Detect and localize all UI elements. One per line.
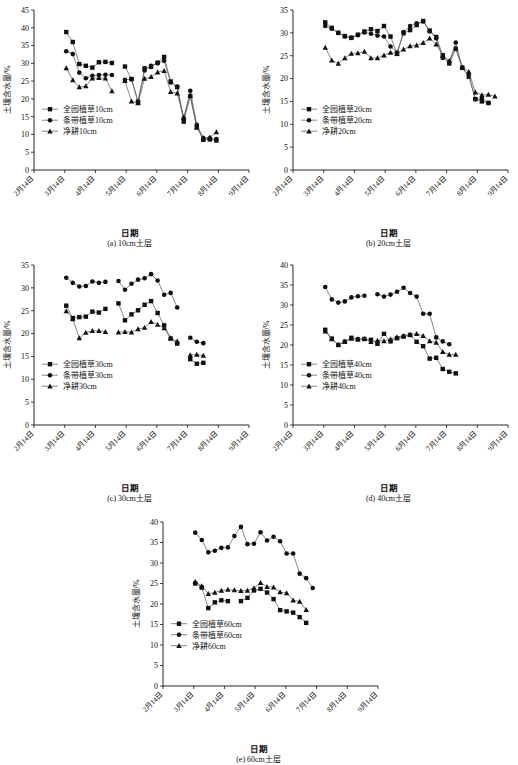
x-tick-label: 2月14日 xyxy=(271,430,294,453)
data-point-square xyxy=(421,344,425,348)
panel-caption-text: (e) 60cm土层 xyxy=(129,755,388,765)
data-point-circle xyxy=(149,64,154,69)
data-point-circle xyxy=(155,61,160,66)
x-tick-label: 3月14日 xyxy=(43,430,66,453)
data-point-circle xyxy=(307,373,312,378)
data-point-circle xyxy=(84,284,89,289)
data-point-triangle xyxy=(420,40,425,45)
data-point-triangle xyxy=(486,92,491,97)
y-axis-title: 土壤含水量/% xyxy=(2,65,12,114)
data-point-circle xyxy=(136,277,141,282)
data-point-triangle xyxy=(168,89,173,94)
data-point-circle xyxy=(307,118,312,123)
data-point-triangle xyxy=(336,61,341,66)
x-tick-label: 7月14日 xyxy=(425,175,448,198)
legend-label: 净耕30cm xyxy=(63,381,98,391)
data-point-square xyxy=(265,590,269,594)
x-tick-label: 6月14日 xyxy=(394,430,417,453)
panel-caption-text: (d) 40cm土层 xyxy=(259,494,518,505)
y-tick-label: 30 xyxy=(280,29,288,38)
y-axis-title: 土壤含水量/% xyxy=(2,320,12,369)
data-point-triangle xyxy=(64,65,69,70)
data-point-circle xyxy=(382,34,387,39)
data-point-square xyxy=(375,29,379,33)
data-point-triangle xyxy=(427,36,432,41)
y-tick-label: 30 xyxy=(280,301,288,310)
x-tick-label: 6月14日 xyxy=(394,175,417,198)
data-point-circle xyxy=(77,284,82,289)
y-tick-label: 20 xyxy=(21,329,29,338)
data-point-circle xyxy=(245,542,250,547)
data-point-square xyxy=(77,315,81,319)
data-point-circle xyxy=(304,576,309,581)
x-tick-label: 8月14日 xyxy=(197,430,220,453)
data-point-square xyxy=(414,340,418,344)
data-point-circle xyxy=(343,299,348,304)
y-tick-label: 0 xyxy=(284,166,288,175)
data-point-circle xyxy=(265,538,270,543)
data-point-circle xyxy=(278,539,283,544)
data-point-circle xyxy=(188,88,193,93)
y-tick-label: 40 xyxy=(21,24,29,33)
data-point-square xyxy=(64,30,68,34)
data-point-circle xyxy=(97,281,102,286)
data-point-circle xyxy=(284,551,289,556)
data-point-square xyxy=(213,600,217,604)
y-tick-label: 25 xyxy=(21,77,29,86)
chart-panel-d: 05101520253035402月14日3月14日4月14日5月14日6月14… xyxy=(259,255,518,505)
data-point-circle xyxy=(421,312,426,317)
series-line xyxy=(377,288,449,344)
x-tick-label: 9月14日 xyxy=(356,691,379,714)
data-point-triangle xyxy=(342,55,347,60)
data-point-square xyxy=(177,621,181,625)
data-point-circle xyxy=(388,292,393,297)
y-tick-label: 35 xyxy=(21,261,29,270)
data-point-circle xyxy=(395,290,400,295)
panel-caption: 日期(a) 10cm土层 xyxy=(0,228,259,250)
series-square xyxy=(323,19,491,105)
data-point-triangle xyxy=(122,329,127,334)
legend-label: 条带植草20cm xyxy=(322,115,373,125)
legend-label: 全园植草20cm xyxy=(322,104,373,114)
data-point-square xyxy=(149,299,153,303)
y-tick-label: 20 xyxy=(150,600,158,609)
data-point-triangle xyxy=(329,57,334,62)
data-point-square xyxy=(408,28,412,32)
y-tick-label: 40 xyxy=(150,518,158,527)
data-point-triangle xyxy=(109,88,114,93)
data-point-circle xyxy=(323,285,328,290)
data-point-circle xyxy=(356,33,361,38)
data-point-circle xyxy=(362,294,367,299)
data-point-circle xyxy=(226,545,231,550)
data-point-square xyxy=(427,356,431,360)
data-point-triangle xyxy=(440,349,445,354)
data-point-triangle xyxy=(129,99,134,104)
data-point-square xyxy=(201,361,205,365)
data-point-square xyxy=(304,621,308,625)
y-tick-label: 5 xyxy=(25,398,29,407)
data-point-circle xyxy=(168,80,173,85)
x-tick-label: 4月14日 xyxy=(333,175,356,198)
x-axis-title: 日期 xyxy=(0,228,259,239)
data-point-square xyxy=(103,60,107,64)
y-tick-label: 15 xyxy=(150,620,158,629)
series-line xyxy=(195,527,312,588)
y-tick-label: 45 xyxy=(21,6,29,15)
data-point-square xyxy=(116,301,120,305)
data-point-triangle xyxy=(401,47,406,52)
data-point-circle xyxy=(129,281,134,286)
data-point-circle xyxy=(84,76,89,81)
data-point-square xyxy=(226,599,230,603)
data-point-circle xyxy=(427,312,432,317)
data-point-square xyxy=(258,587,262,591)
series-square xyxy=(193,581,308,625)
data-point-square xyxy=(284,609,288,613)
y-tick-label: 20 xyxy=(280,74,288,83)
data-point-circle xyxy=(369,31,374,36)
data-point-circle xyxy=(375,292,380,297)
series-line xyxy=(118,322,177,342)
data-point-circle xyxy=(142,68,147,73)
legend-label: 条带植草60cm xyxy=(192,630,243,640)
data-point-circle xyxy=(188,335,193,340)
y-axis-title: 土壤含水量/% xyxy=(261,320,271,369)
